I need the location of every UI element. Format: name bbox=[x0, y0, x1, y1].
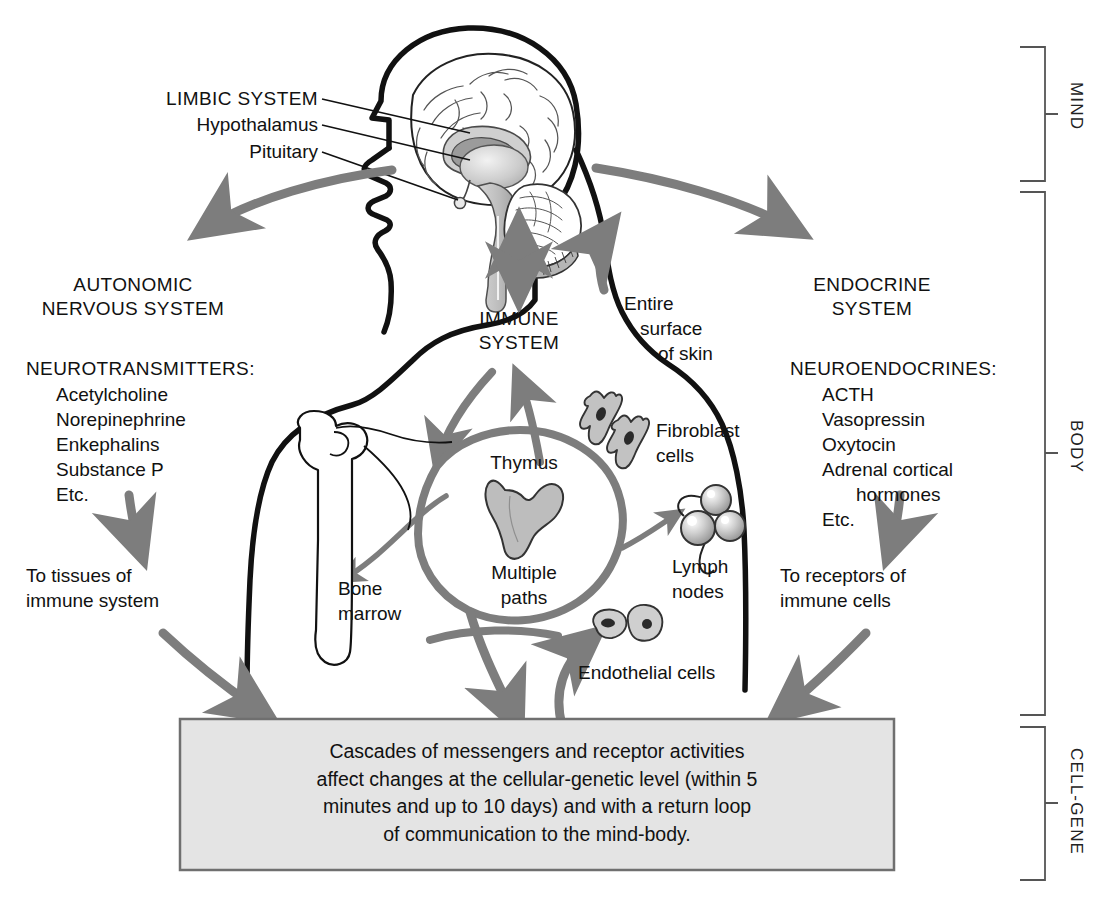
arrow-ring-to-bone-marrow bbox=[342, 496, 446, 580]
right-target-line1: To receptors of bbox=[780, 565, 906, 588]
bracket-body bbox=[1020, 192, 1058, 715]
left-target-line2: immune system bbox=[26, 590, 159, 613]
skin-label-line3: of skin bbox=[658, 343, 713, 366]
callout-hypothalamus: Hypothalamus bbox=[197, 114, 318, 137]
neuroendocrine-item-4: hormones bbox=[856, 484, 941, 507]
neuroendocrines-heading: NEUROENDOCRINES: bbox=[790, 358, 997, 381]
arrow-ring-to-immune-right bbox=[517, 374, 540, 462]
arrow-brain-to-endocrine bbox=[596, 168, 800, 232]
arrow-left-to-cellgene bbox=[163, 633, 268, 716]
endothelial-cells-illustration bbox=[593, 605, 662, 641]
callout-limbic-system: LIMBIC SYSTEM bbox=[166, 88, 318, 111]
brain-illustration bbox=[411, 54, 581, 312]
immune-heading-line1: IMMUNE bbox=[479, 308, 558, 331]
arrow-brain-to-autonomic bbox=[200, 170, 392, 232]
lymph-label-line2: nodes bbox=[672, 581, 724, 604]
multiple-paths-line1: Multiple bbox=[491, 562, 556, 585]
thymus-label: Thymus bbox=[490, 452, 558, 475]
cell-gene-line-0: Cascades of messengers and receptor acti… bbox=[180, 738, 894, 766]
arrow-neurotransmitters-down bbox=[129, 495, 142, 556]
neurotransmitter-item-3: Substance P bbox=[56, 459, 164, 482]
bone-marrow-label-line2: marrow bbox=[338, 603, 401, 626]
arrow-ring-to-lymph bbox=[622, 512, 680, 548]
fibroblast-label-line2: cells bbox=[656, 445, 694, 468]
bone-marrow-label-line1: Bone bbox=[338, 578, 382, 601]
flow-arrows bbox=[129, 168, 900, 726]
left-target-line1: To tissues of bbox=[26, 565, 132, 588]
neuroendocrine-item-0: ACTH bbox=[822, 384, 874, 407]
neuroendocrine-item-5: Etc. bbox=[822, 509, 855, 532]
right-target-line2: immune cells bbox=[780, 590, 891, 613]
immune-heading-line2: SYSTEM bbox=[479, 332, 560, 355]
neuroendocrine-item-2: Oxytocin bbox=[822, 434, 896, 457]
endocrine-heading-line2: SYSTEM bbox=[832, 298, 913, 321]
autonomic-heading-line1: AUTONOMIC bbox=[73, 274, 192, 297]
skin-label-line1: Entire bbox=[624, 293, 674, 316]
bracket-label-mind: MIND bbox=[1066, 82, 1086, 130]
thymus-illustration bbox=[485, 481, 563, 559]
endothelial-label: Endothelial cells bbox=[578, 662, 715, 685]
bracket-mind bbox=[1020, 47, 1058, 181]
autonomic-heading-line2: NERVOUS SYSTEM bbox=[42, 298, 225, 321]
arrow-right-to-cellgene bbox=[776, 633, 866, 716]
bone-marrow-illustration bbox=[298, 411, 452, 665]
endocrine-heading-line1: ENDOCRINE bbox=[813, 274, 931, 297]
mind-body-diagram: LIMBIC SYSTEM Hypothalamus Pituitary AUT… bbox=[0, 0, 1119, 904]
arrow-immune-to-ring-left bbox=[437, 372, 492, 462]
cell-gene-line-1: affect changes at the cellular-genetic l… bbox=[180, 766, 894, 794]
section-brackets bbox=[1020, 47, 1058, 880]
skin-label-line2: surface bbox=[640, 318, 702, 341]
bracket-label-body: BODY bbox=[1066, 420, 1086, 473]
neuroendocrine-item-3: Adrenal cortical bbox=[822, 459, 953, 482]
neurotransmitter-item-1: Norepinephrine bbox=[56, 409, 186, 432]
neurotransmitter-item-2: Enkephalins bbox=[56, 434, 160, 457]
bracket-label-cell-gene: CELL-GENE bbox=[1066, 748, 1086, 855]
cell-gene-line-2: minutes and up to 10 days) and with a re… bbox=[180, 793, 894, 821]
cell-gene-box-text: Cascades of messengers and receptor acti… bbox=[180, 738, 894, 849]
neurotransmitter-item-0: Acetylcholine bbox=[56, 384, 168, 407]
cell-gene-line-3: of communication to the mind-body. bbox=[180, 821, 894, 849]
callout-pituitary: Pituitary bbox=[249, 141, 318, 164]
neurotransmitter-item-4: Etc. bbox=[56, 484, 89, 507]
neuroendocrine-item-1: Vasopressin bbox=[822, 409, 925, 432]
fibroblast-label-line1: Fibroblast bbox=[656, 420, 739, 443]
multiple-paths-line2: paths bbox=[501, 587, 547, 610]
connector-ring-bottom bbox=[430, 630, 558, 640]
lymph-label-line1: Lymph bbox=[672, 556, 728, 579]
bracket-cell-gene bbox=[1020, 727, 1058, 880]
neurotransmitters-heading: NEUROTRANSMITTERS: bbox=[26, 358, 255, 381]
